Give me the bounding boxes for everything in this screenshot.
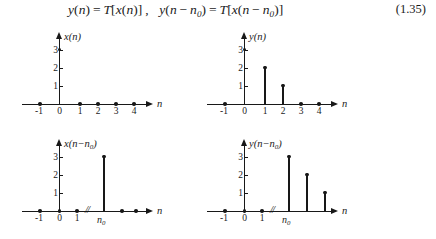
y-tick-2 — [245, 175, 248, 176]
y-tick-3 — [60, 157, 63, 158]
axis-break-marker: // — [85, 203, 89, 215]
y-axis-arrow-icon — [56, 32, 62, 39]
data-point — [263, 66, 267, 70]
data-point — [58, 48, 62, 52]
stem-line — [282, 86, 283, 105]
data-point — [281, 84, 285, 88]
x-axis-arrow-icon — [331, 101, 338, 107]
series-label: x(n−n0) — [64, 138, 97, 151]
x-axis-label: n — [157, 205, 162, 216]
y-tick-1 — [245, 86, 248, 87]
x-tick-label-0: 0 — [52, 214, 68, 224]
y-tick-label-1: 1 — [233, 189, 243, 199]
y-tick-label-3: 3 — [48, 46, 58, 56]
y-tick-3 — [245, 157, 248, 158]
stem-line — [103, 157, 104, 212]
x-tick-label--1: -1 — [30, 107, 48, 117]
x-tick-label-n0: n0 — [97, 214, 105, 226]
y-tick-label-2: 2 — [48, 64, 58, 74]
data-point — [323, 191, 327, 195]
y-tick-label-1: 1 — [48, 82, 58, 92]
x-tick-label--1: -1 — [215, 214, 233, 224]
y-tick-label-1: 1 — [233, 82, 243, 92]
chart-x-of-n: x(n) n 1 2 3 -1 0 1 2 3 4 — [22, 30, 202, 122]
series-label: y(n−n0) — [249, 138, 282, 151]
data-point — [243, 48, 247, 52]
equation-row: y(n) = T[x(n)] , y(n − n0) = T[x(n − n0)… — [0, 2, 436, 24]
series-label: x(n) — [64, 31, 81, 42]
y-tick-label-3: 3 — [233, 153, 243, 163]
x-tick-label-4: 4 — [126, 107, 142, 117]
chart-y-of-n: y(n) n 1 2 3 -1 0 1 2 3 4 — [207, 30, 387, 122]
data-point — [134, 209, 138, 213]
x-tick-label-n0: n0 — [282, 214, 290, 226]
y-tick-1 — [245, 193, 248, 194]
x-axis-label: n — [157, 98, 162, 109]
chart-y-of-n-minus-n0: y(n−n0) n 1 2 3 // -1 0 1 n0 — [207, 135, 387, 235]
y-axis — [244, 145, 245, 211]
y-axis-arrow-icon — [241, 32, 247, 39]
stem-line — [244, 50, 245, 105]
x-tick-label--1: -1 — [30, 214, 48, 224]
y-tick-label-1: 1 — [48, 189, 58, 199]
x-tick-label-1: 1 — [72, 107, 88, 117]
y-tick-2 — [245, 68, 248, 69]
x-axis-arrow-icon — [331, 208, 338, 214]
x-axis-arrow-icon — [146, 101, 153, 107]
stem-line — [324, 193, 325, 212]
series-label: y(n) — [249, 31, 266, 42]
x-tick-label-2: 2 — [90, 107, 106, 117]
stem-line — [59, 50, 60, 105]
chart-x-of-n-minus-n0: x(n−n0) n 1 2 3 // -1 0 1 n0 — [22, 135, 202, 235]
data-point — [287, 155, 291, 159]
stem-line — [288, 157, 289, 212]
y-tick-label-3: 3 — [48, 153, 58, 163]
x-tick-label-2: 2 — [275, 107, 291, 117]
y-axis-arrow-icon — [241, 139, 247, 146]
x-tick-label-1: 1 — [257, 107, 273, 117]
x-tick-label-3: 3 — [293, 107, 309, 117]
x-tick-label-4: 4 — [311, 107, 327, 117]
x-tick-label-1: 1 — [254, 214, 270, 224]
y-tick-label-2: 2 — [233, 64, 243, 74]
data-point — [102, 155, 106, 159]
x-tick-label-0: 0 — [237, 107, 253, 117]
stem-line — [264, 68, 265, 105]
y-tick-1 — [60, 193, 63, 194]
y-tick-label-3: 3 — [233, 46, 243, 56]
data-point — [305, 173, 309, 177]
x-tick-label-1: 1 — [69, 214, 85, 224]
x-axis-label: n — [342, 205, 347, 216]
y-tick-label-2: 2 — [233, 171, 243, 181]
y-tick-2 — [60, 68, 63, 69]
y-axis — [59, 145, 60, 211]
y-tick-label-2: 2 — [48, 171, 58, 181]
x-tick-label-0: 0 — [52, 107, 68, 117]
x-axis-label: n — [342, 98, 347, 109]
y-axis-arrow-icon — [56, 139, 62, 146]
y-tick-1 — [60, 86, 63, 87]
y-tick-2 — [60, 175, 63, 176]
equation-expression: y(n) = T[x(n)] , y(n − n0) = T[x(n − n0)… — [68, 2, 283, 19]
x-axis-arrow-icon — [146, 208, 153, 214]
data-point — [120, 209, 124, 213]
x-tick-label-0: 0 — [237, 214, 253, 224]
x-tick-label-3: 3 — [108, 107, 124, 117]
x-tick-label--1: -1 — [215, 107, 233, 117]
equation-number: (1.35) — [396, 2, 426, 17]
stem-line — [306, 175, 307, 212]
axis-break-marker: // — [270, 203, 274, 215]
